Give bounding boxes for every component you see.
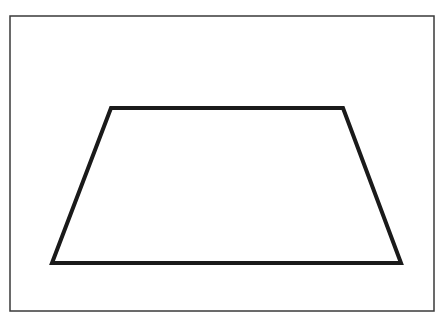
figure-canvas <box>0 0 447 326</box>
trapezoid-shape <box>52 108 401 263</box>
frame-border <box>10 16 434 311</box>
